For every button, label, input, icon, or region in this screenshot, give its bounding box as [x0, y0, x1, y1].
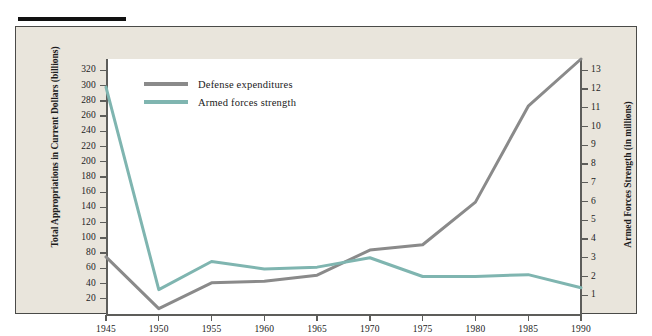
chart-page: 2040608010012014016018020022024026028030…	[0, 0, 652, 336]
top-rule-decoration	[18, 17, 126, 21]
x-axis-tick-label: 1965	[297, 324, 337, 334]
x-axis-tick	[475, 315, 476, 321]
figure-frame: 2040608010012014016018020022024026028030…	[15, 26, 637, 314]
legend-item: Defense expenditures	[144, 75, 296, 93]
x-axis-tick	[158, 315, 159, 321]
x-axis-tick-label: 1955	[192, 324, 232, 334]
chart-legend: Defense expendituresArmed forces strengt…	[144, 75, 296, 111]
x-axis-tick	[211, 315, 212, 321]
x-axis-tick-label: 1980	[455, 324, 495, 334]
legend-item: Armed forces strength	[144, 93, 296, 111]
x-axis-tick-label: 1975	[403, 324, 443, 334]
x-axis-tick	[369, 315, 370, 321]
x-axis-tick	[264, 315, 265, 321]
x-axis-tick	[422, 315, 423, 321]
x-axis-tick-label: 1950	[139, 324, 179, 334]
chart-series-svg	[16, 27, 638, 315]
x-axis-tick	[316, 315, 317, 321]
legend-swatch-icon	[144, 100, 188, 103]
x-axis-tick	[105, 315, 106, 321]
legend-swatch-icon	[144, 82, 188, 85]
x-axis-tick-label: 1970	[350, 324, 390, 334]
series-line	[106, 87, 581, 290]
x-axis-tick	[580, 315, 581, 321]
x-axis-tick-label: 1960	[244, 324, 284, 334]
x-axis-tick-label: 1985	[508, 324, 548, 334]
legend-label: Defense expenditures	[198, 79, 293, 90]
x-axis-tick-label: 1990	[561, 324, 601, 334]
legend-label: Armed forces strength	[198, 97, 296, 108]
x-axis-tick	[528, 315, 529, 321]
x-axis-tick-label: 1945	[86, 324, 126, 334]
